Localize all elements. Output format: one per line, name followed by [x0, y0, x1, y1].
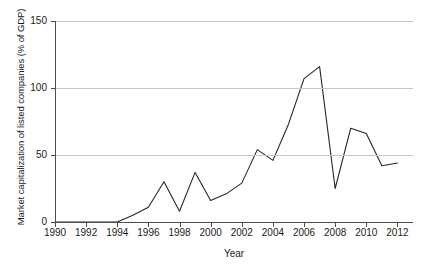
y-tick-mark-150 [51, 21, 55, 22]
series-line [55, 21, 413, 222]
y-axis-line [55, 21, 56, 222]
y-tick-mark-100 [51, 88, 55, 89]
gridline-y-150 [55, 21, 413, 22]
gridline-y-100 [55, 88, 413, 89]
plot-area [55, 21, 413, 222]
y-axis-title: Market capitalization of listed companie… [14, 2, 28, 232]
y-tick-label-100: 100 [13, 82, 47, 93]
x-axis-line [55, 222, 413, 223]
y-tick-mark-50 [51, 155, 55, 156]
chart-figure: Market capitalization of listed companie… [0, 0, 429, 271]
y-tick-label-0: 0 [13, 216, 47, 227]
y-tick-label-50: 50 [13, 149, 47, 160]
y-tick-label-150: 150 [13, 15, 47, 26]
x-axis-title: Year [55, 248, 413, 259]
gridline-y-50 [55, 155, 413, 156]
x-tick-label-2012: 2012 [377, 227, 417, 238]
